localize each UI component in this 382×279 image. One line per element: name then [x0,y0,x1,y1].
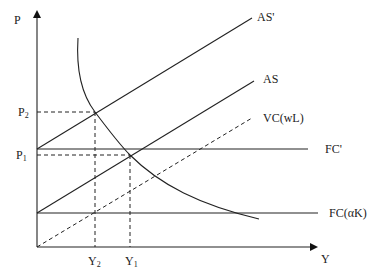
p2-label: P2 [18,105,29,120]
vc-label: VC(wL) [263,111,304,125]
as-line [37,81,254,213]
fc-prime-label: FC' [325,142,342,156]
as-prime-line [37,18,252,149]
demand-curve [78,38,259,219]
fc-label: FC(αK) [329,206,367,220]
y1-label: Y1 [125,254,138,269]
y2-label: Y2 [88,254,101,269]
as-prime-label: AS' [257,10,275,24]
economic-diagram: P Y P2 P1 Y2 Y1 AS' AS VC(wL) FC' FC(αK) [0,0,382,279]
y-axis-label: P [14,13,21,27]
vc-line [37,118,252,247]
p1-label: P1 [16,148,27,163]
as-label: AS [263,72,278,86]
x-axis-label: Y [321,252,330,266]
